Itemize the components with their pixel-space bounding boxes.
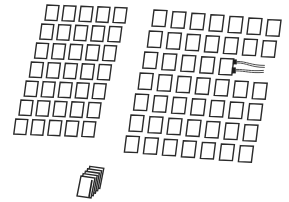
- cable-wire: [236, 71, 264, 73]
- right-grid-card: [261, 41, 276, 58]
- left-grid-card: [31, 120, 45, 136]
- right-grid-card: [162, 54, 177, 71]
- left-grid-card: [92, 83, 106, 99]
- left-grid-card: [24, 81, 38, 97]
- right-grid-card: [181, 141, 196, 158]
- right-grid-card: [238, 146, 253, 163]
- right-grid-card: [148, 117, 163, 134]
- right-card-grid: [124, 10, 281, 162]
- right-grid-card: [172, 97, 187, 114]
- right-grid-card: [191, 99, 206, 116]
- left-grid-card: [87, 102, 101, 118]
- left-grid-card: [82, 121, 96, 137]
- right-grid-card: [224, 123, 239, 140]
- left-grid-card: [45, 5, 59, 21]
- left-grid-card: [63, 63, 77, 79]
- right-grid-card: [176, 76, 191, 93]
- left-grid-card: [65, 121, 79, 137]
- left-grid-card: [79, 6, 93, 22]
- left-grid-card: [29, 62, 43, 78]
- left-grid-card: [53, 101, 67, 117]
- right-grid-card: [214, 79, 229, 96]
- left-grid-card: [108, 26, 122, 42]
- left-grid-card: [57, 25, 71, 41]
- plug-icon: [233, 59, 237, 64]
- left-grid-card: [19, 100, 33, 116]
- right-grid-card: [171, 12, 186, 29]
- right-grid-card: [205, 121, 220, 138]
- left-grid-card: [86, 45, 100, 61]
- right-grid-card: [228, 16, 243, 33]
- right-grid-card: [147, 31, 162, 48]
- right-grid-card: [153, 96, 168, 113]
- right-grid-card: [152, 10, 167, 27]
- right-grid-card: [166, 33, 181, 50]
- left-grid-card: [62, 6, 76, 22]
- left-grid-card: [75, 83, 89, 99]
- right-grid-card: [248, 104, 263, 121]
- cable-plug-icon: [232, 59, 265, 73]
- right-grid-card: [190, 13, 205, 30]
- left-grid-card: [40, 24, 54, 40]
- right-grid-card: [195, 78, 210, 95]
- left-grid-card: [96, 7, 110, 23]
- right-grid-card: [181, 55, 196, 72]
- right-grid-card: [167, 118, 182, 135]
- card-stack-icon: [77, 166, 104, 198]
- right-grid-card: [143, 138, 158, 155]
- right-grid-card: [185, 34, 200, 51]
- plug-icon: [232, 67, 236, 73]
- left-grid-card: [36, 101, 50, 117]
- left-grid-card: [103, 45, 117, 61]
- right-grid-card: [204, 36, 219, 53]
- left-grid-card: [52, 44, 66, 60]
- left-grid-card: [97, 64, 111, 80]
- right-grid-card: [162, 139, 177, 156]
- right-grid-card: [200, 57, 215, 74]
- right-grid-card: [138, 73, 153, 90]
- left-grid-card: [69, 44, 83, 60]
- left-grid-card: [74, 25, 88, 41]
- right-grid-card: [242, 39, 257, 56]
- right-grid-card: [223, 37, 238, 54]
- left-grid-card: [41, 82, 55, 98]
- left-grid-card: [48, 120, 62, 136]
- right-grid-card: [200, 142, 215, 159]
- left-grid-card: [35, 43, 49, 59]
- right-grid-card: [129, 115, 144, 132]
- right-grid-card: [157, 75, 172, 92]
- left-grid-card: [70, 102, 84, 118]
- right-grid-card: [233, 81, 248, 98]
- right-grid-card: [247, 18, 262, 35]
- right-grid-card: [209, 15, 224, 32]
- right-grid-card: [243, 125, 258, 142]
- stacked-card: [77, 176, 95, 198]
- diagram-canvas: [0, 0, 289, 202]
- left-grid-card: [91, 26, 105, 42]
- left-grid-card: [46, 63, 60, 79]
- left-grid-card: [113, 7, 127, 23]
- left-grid-card: [80, 64, 94, 80]
- right-grid-card: [229, 102, 244, 119]
- card-grid-illustration: [0, 0, 289, 202]
- right-grid-card: [219, 58, 234, 75]
- left-grid-card: [58, 82, 72, 98]
- right-grid-card: [266, 20, 281, 37]
- right-grid-card: [186, 120, 201, 137]
- right-grid-card: [143, 52, 158, 69]
- right-grid-card: [134, 94, 149, 111]
- left-card-grid: [14, 5, 127, 137]
- right-grid-card: [252, 83, 267, 100]
- cable-wire: [236, 69, 264, 70]
- left-grid-card: [14, 119, 28, 135]
- right-grid-card: [210, 100, 225, 117]
- right-grid-card: [219, 144, 234, 161]
- right-grid-card: [124, 136, 139, 153]
